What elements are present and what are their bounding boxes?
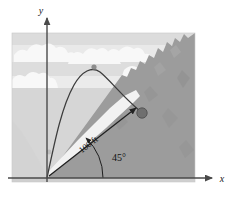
x-axis-label: x bbox=[219, 173, 225, 184]
apex-marker bbox=[91, 64, 96, 69]
projectile-diagram: y x 100 ft 45° bbox=[0, 0, 234, 202]
scene-illustration bbox=[12, 33, 195, 182]
y-axis-label: y bbox=[38, 5, 44, 16]
impact-point-dot bbox=[137, 108, 147, 118]
angle-label: 45° bbox=[112, 152, 126, 163]
